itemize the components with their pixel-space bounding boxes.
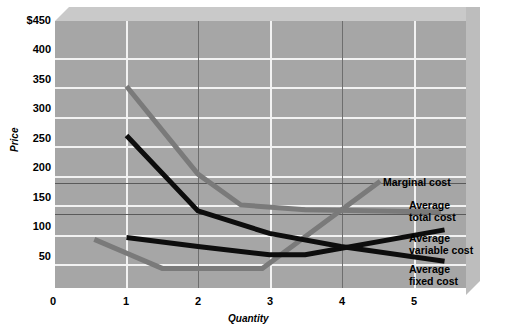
- callout-average-variable-cost: Average variable cost: [409, 233, 473, 256]
- y-tick-400: 400: [33, 44, 51, 55]
- chart-figure: $450 400 350 300 250 200 150 100 50 0 1 …: [0, 0, 516, 331]
- y-tick-200: 200: [33, 162, 51, 173]
- y-tick-450: $450: [27, 15, 51, 26]
- y-tick-100: 100: [33, 221, 51, 232]
- y-axis-title: Price: [9, 128, 20, 152]
- x-tick-5: 5: [404, 296, 424, 307]
- x-tick-4: 4: [332, 296, 352, 307]
- series-lines: [55, 21, 466, 288]
- y-tick-350: 350: [33, 74, 51, 85]
- y-axis-ticks: $450 400 350 300 250 200 150 100 50: [0, 0, 51, 331]
- series-line-average-total-cost: [126, 86, 441, 212]
- callout-marginal-cost: Marginal cost: [383, 177, 451, 189]
- plot-area: [55, 21, 466, 288]
- y-tick-250: 250: [33, 133, 51, 144]
- x-tick-3: 3: [260, 296, 280, 307]
- callout-average-total-cost: Average total cost: [409, 200, 456, 223]
- x-tick-0: 0: [43, 296, 63, 307]
- x-axis-title: Quantity: [228, 313, 269, 324]
- x-tick-2: 2: [188, 296, 208, 307]
- y-tick-300: 300: [33, 103, 51, 114]
- callout-average-fixed-cost: Average fixed cost: [409, 264, 458, 287]
- plaque-top-bevel: [55, 7, 475, 21]
- y-tick-150: 150: [33, 192, 51, 203]
- x-tick-1: 1: [116, 296, 136, 307]
- y-tick-50: 50: [39, 251, 51, 262]
